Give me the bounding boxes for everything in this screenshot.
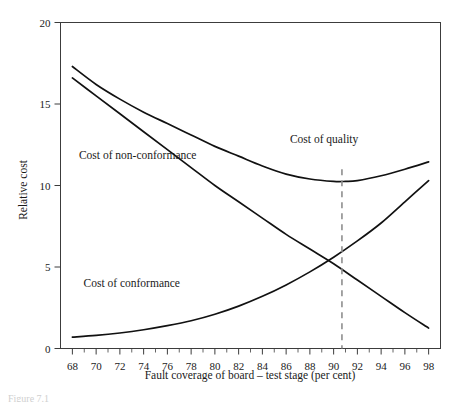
chart-background (0, 0, 468, 402)
x-tick-label-94: 94 (376, 360, 388, 372)
figure-caption-fragment: Figure 7.1 (8, 393, 208, 402)
y-tick-label-0: 0 (45, 343, 51, 355)
y-tick-label-10: 10 (40, 180, 52, 192)
annotation-cost-of-quality: Cost of quality (290, 133, 359, 146)
x-tick-label-70: 70 (91, 360, 103, 372)
x-tick-label-68: 68 (67, 360, 79, 372)
y-tick-label-15: 15 (40, 98, 52, 110)
y-tick-label-5: 5 (45, 261, 51, 273)
y-axis-title: Relative cost (17, 159, 29, 220)
x-tick-label-96: 96 (399, 360, 411, 372)
x-tick-label-72: 72 (114, 360, 125, 372)
annotation-cost-of-conformance: Cost of conformance (84, 277, 180, 289)
x-tick-label-98: 98 (423, 360, 435, 372)
x-axis-title: Fault coverage of board – test stage (pe… (145, 369, 356, 382)
relative-cost-vs-fault-coverage-chart: 05101520 6870727476788082848688909294969… (0, 0, 468, 402)
annotation-cost-of-non-conformance: Cost of non-conformance (79, 149, 197, 161)
y-tick-label-20: 20 (40, 17, 52, 29)
chart-figure: 05101520 6870727476788082848688909294969… (0, 0, 468, 402)
